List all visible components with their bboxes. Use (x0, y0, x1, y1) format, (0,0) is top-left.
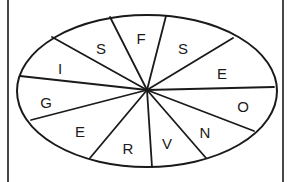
letter-wheel-diagram: FSEONVREGIS (0, 0, 292, 182)
spoke-line (90, 90, 147, 158)
spoke-line (147, 16, 166, 90)
segment-letter: F (136, 30, 145, 47)
spokes (20, 16, 274, 167)
segment-letter: O (237, 98, 249, 115)
spoke-line (20, 76, 147, 90)
spoke-line (147, 90, 206, 158)
segment-letter: S (96, 40, 106, 57)
wheel-canvas: FSEONVREGIS (0, 0, 292, 182)
segment-letter: E (75, 123, 85, 140)
segment-letter: V (162, 135, 172, 152)
segment-letter: I (58, 60, 62, 77)
spoke-line (147, 87, 274, 90)
segment-letter: E (217, 65, 227, 82)
segment-letter: G (40, 94, 52, 111)
spoke-line (147, 90, 152, 167)
segment-letter: S (178, 40, 188, 57)
segment-letter: N (200, 124, 211, 141)
segment-letter: R (123, 140, 134, 157)
